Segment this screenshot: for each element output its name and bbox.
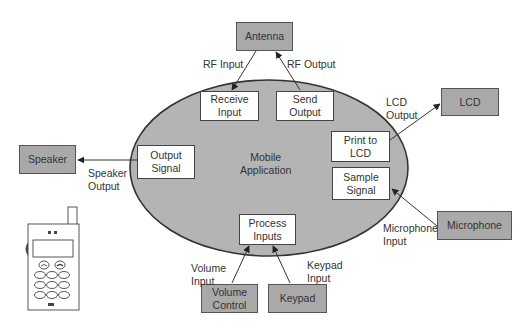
rf-output-label: RF Output xyxy=(287,58,335,71)
send-output-process: Send Output xyxy=(276,91,334,121)
microphone-label: Microphone xyxy=(447,219,502,232)
print-to-lcd-label-1: Print to xyxy=(344,134,377,147)
speaker-output-label: Speaker Output xyxy=(88,167,127,193)
lcd-label: LCD xyxy=(459,96,480,109)
antenna-label: Antenna xyxy=(245,30,284,43)
lcd-output-label-2: Output xyxy=(386,109,418,122)
keypad-input-label: Keypad Input xyxy=(307,259,343,285)
volume-control-entity: Volume Control xyxy=(201,284,258,313)
sample-signal-label-1: Sample xyxy=(343,171,379,184)
volume-control-label-2: Control xyxy=(213,299,247,312)
process-inputs-label-1: Process xyxy=(249,217,287,230)
speaker-entity: Speaker xyxy=(19,145,76,174)
speaker-output-label-2: Output xyxy=(88,180,127,193)
microphone-input-label-2: Input xyxy=(383,235,438,248)
process-inputs-label-2: Inputs xyxy=(253,230,282,243)
print-to-lcd-label-2: LCD xyxy=(350,147,371,160)
antenna-entity: Antenna xyxy=(236,22,293,51)
keypad-label: Keypad xyxy=(280,292,316,305)
mobile-application-label: Mobile Application xyxy=(240,151,291,177)
speaker-output-label-1: Speaker xyxy=(88,167,127,180)
send-output-label-2: Output xyxy=(289,106,321,119)
receive-input-label-2: Input xyxy=(218,106,241,119)
print-to-lcd-process: Print to LCD xyxy=(331,131,390,162)
process-inputs-process: Process Inputs xyxy=(239,214,296,245)
output-signal-process: Output Signal xyxy=(137,145,195,179)
send-output-label-1: Send xyxy=(293,93,318,106)
output-signal-label-2: Signal xyxy=(151,162,180,175)
volume-input-label: Volume Input xyxy=(191,262,226,288)
lcd-entity: LCD xyxy=(441,88,499,116)
sample-signal-process: Sample Signal xyxy=(332,167,390,200)
receive-input-process: Receive Input xyxy=(200,91,259,121)
speaker-label: Speaker xyxy=(28,153,67,166)
receive-input-label-1: Receive xyxy=(211,93,249,106)
rf-input-label: RF Input xyxy=(203,58,243,71)
mobile-phone-icon xyxy=(26,207,79,310)
microphone-input-label: Microphone Input xyxy=(383,222,438,248)
flow-microphone-input xyxy=(392,189,437,226)
keypad-input-label-1: Keypad xyxy=(307,259,343,272)
output-signal-label-1: Output xyxy=(150,149,182,162)
lcd-output-label: LCD Output xyxy=(386,96,418,122)
sample-signal-label-2: Signal xyxy=(346,184,375,197)
volume-input-label-2: Input xyxy=(191,275,226,288)
microphone-input-label-1: Microphone xyxy=(383,222,438,235)
center-label-line2: Application xyxy=(240,164,291,177)
volume-input-label-1: Volume xyxy=(191,262,226,275)
center-label-line1: Mobile xyxy=(240,151,291,164)
microphone-entity: Microphone xyxy=(437,211,512,240)
keypad-input-label-2: Input xyxy=(307,272,343,285)
lcd-output-label-1: LCD xyxy=(386,96,418,109)
keypad-entity: Keypad xyxy=(268,284,327,313)
